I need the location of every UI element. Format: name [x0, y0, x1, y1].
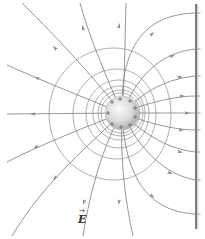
arrowhead-icon	[180, 94, 186, 98]
electric-field-lines	[7, 3, 196, 236]
arrowhead-icon	[177, 150, 183, 155]
arrowhead-icon	[80, 25, 85, 31]
arrowhead-icon	[117, 199, 121, 205]
arrowhead-icon	[52, 45, 58, 51]
field-line	[7, 113, 122, 114]
arrowhead-icon	[82, 199, 87, 205]
field-diagram	[0, 0, 205, 239]
arrowhead-icon	[34, 75, 40, 80]
charged-plate	[196, 4, 201, 229]
charged-sphere	[105, 96, 139, 130]
field-line	[7, 113, 122, 162]
field-line	[80, 3, 122, 113]
field-line	[22, 3, 122, 113]
arrowhead-icon	[149, 31, 156, 37]
arrowhead-icon	[117, 23, 122, 29]
electric-field-label: E	[78, 214, 86, 225]
positive-sphere	[105, 96, 139, 130]
field-line	[12, 113, 122, 236]
arrowhead-icon	[178, 128, 184, 132]
